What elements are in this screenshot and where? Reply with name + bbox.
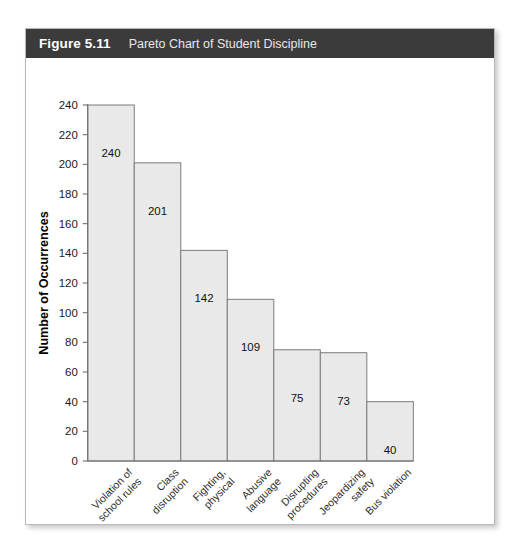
category-label-line: Bus violation	[363, 466, 414, 517]
bars-group	[88, 105, 414, 461]
y-axis-ticks: 020406080100120140160180200220240	[59, 99, 88, 467]
y-axis-tick-label: 140	[59, 247, 78, 259]
y-axis-tick-label: 80	[65, 336, 78, 348]
figure-header: Figure 5.11 Pareto Chart of Student Disc…	[26, 29, 494, 58]
bar	[227, 299, 274, 461]
figure-title: Pareto Chart of Student Discipline	[129, 37, 317, 51]
x-axis-category-label: Classdisruption	[140, 466, 190, 516]
bar-value-label: 240	[101, 147, 120, 159]
figure-number-label: Figure 5.11	[39, 36, 111, 51]
bar-value-label: 109	[241, 341, 260, 353]
y-axis-tick-label: 240	[59, 99, 78, 111]
bar-value-label: 75	[291, 392, 304, 404]
chart-svg: Number of Occurrences 020406080100120140…	[26, 58, 494, 526]
y-axis-tick-label: 0	[71, 455, 77, 467]
x-axis-category-label: Violation ofschool rules	[86, 466, 143, 524]
y-axis-tick-label: 160	[59, 218, 78, 230]
x-axis-category-labels: Violation ofschool rulesClassdisruptionF…	[86, 465, 413, 526]
bar-value-label: 142	[194, 292, 213, 304]
y-axis-tick-label: 200	[59, 158, 78, 170]
figure-card: Figure 5.11 Pareto Chart of Student Disc…	[25, 28, 495, 525]
pareto-chart: Number of Occurrences 020406080100120140…	[26, 58, 494, 526]
bar	[181, 250, 228, 461]
y-axis-tick-label: 120	[59, 277, 78, 289]
y-axis-tick-label: 20	[65, 425, 78, 437]
bar	[320, 353, 367, 461]
bar	[274, 350, 321, 461]
x-axis-category-label: Jeopardizingsafety	[316, 465, 376, 526]
x-axis-category-label: Bus violation	[363, 466, 414, 517]
y-axis-tick-label: 60	[65, 366, 78, 378]
y-axis-tick-label: 180	[59, 188, 78, 200]
y-axis-title: Number of Occurrences	[37, 211, 51, 354]
x-axis-category-label: Fighting,physical	[190, 466, 236, 512]
bar-value-label: 201	[148, 205, 167, 217]
x-axis-category-label: Abusivelanguage	[235, 466, 283, 515]
bar-value-label: 40	[384, 444, 397, 456]
y-axis-label-group: Number of Occurrences	[37, 211, 51, 354]
y-axis-tick-label: 220	[59, 129, 78, 141]
bar-value-label: 73	[337, 395, 350, 407]
y-axis-tick-label: 40	[65, 396, 78, 408]
y-axis-tick-label: 100	[59, 307, 78, 319]
